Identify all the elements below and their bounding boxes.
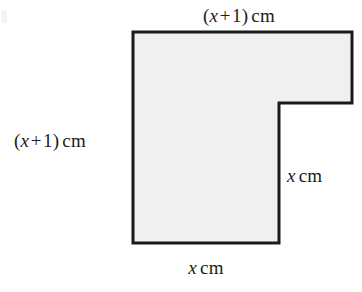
left-dimension-label: (x+1)cm xyxy=(14,131,86,150)
composite-shape-outline xyxy=(133,32,352,243)
right-dimension-label: xcm xyxy=(287,166,322,185)
left-label-variable: x xyxy=(21,130,30,151)
top-label-unit: cm xyxy=(248,5,275,26)
top-dimension-label: (x+1)cm xyxy=(0,6,362,25)
right-label-variable: x xyxy=(287,165,296,186)
geometry-figure: (x+1)cm (x+1)cm xcm xcm xyxy=(0,0,362,292)
left-label-operator: + xyxy=(29,130,43,151)
top-label-operator: + xyxy=(218,5,232,26)
left-label-constant: 1 xyxy=(43,130,53,151)
right-label-unit: cm xyxy=(296,165,323,186)
bottom-label-variable: x xyxy=(188,257,197,278)
bottom-label-unit: cm xyxy=(197,257,224,278)
bottom-dimension-label: xcm xyxy=(133,258,279,277)
top-label-constant: 1 xyxy=(232,5,242,26)
left-label-unit: cm xyxy=(59,130,86,151)
top-label-variable: x xyxy=(210,5,219,26)
